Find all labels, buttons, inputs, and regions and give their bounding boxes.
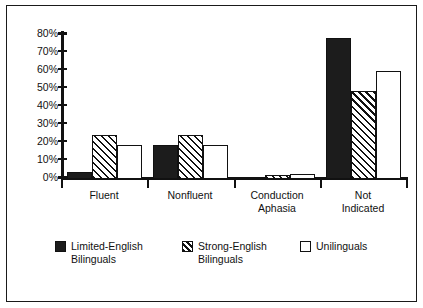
x-category-label: Nonfluent: [150, 189, 230, 202]
legend-swatch-diagonal-hatch-icon: [182, 241, 193, 252]
legend-swatch-open-white-icon: [300, 241, 311, 252]
legend-label: Unilinguals: [316, 240, 367, 253]
legend-label: Strong-English Bilinguals: [198, 240, 267, 266]
bar-strong-english-bilinguals: [178, 135, 203, 179]
legend-item-strong-english-bilinguals: Strong-English Bilinguals: [182, 240, 300, 266]
legend-item-limited-english-bilinguals: Limited-English Bilinguals: [55, 240, 182, 266]
bar-unilinguals: [290, 174, 315, 179]
bar-limited-english-bilinguals: [326, 38, 351, 179]
bar-limited-english-bilinguals: [153, 145, 178, 179]
chart-legend: Limited-English Bilinguals Strong-Englis…: [55, 240, 390, 266]
legend-label: Limited-English Bilinguals: [71, 240, 143, 266]
x-category-label: Fluent: [64, 189, 144, 202]
bar-strong-english-bilinguals: [92, 135, 117, 179]
bar-unilinguals: [203, 145, 228, 179]
bar-unilinguals: [376, 71, 401, 179]
bar-limited-english-bilinguals: [67, 172, 92, 179]
chart-figure: 80% 70% 60% 50% 40% 30% 20% 10% 0% Fluen…: [0, 0, 423, 308]
legend-item-unilinguals: Unilinguals: [300, 240, 390, 253]
bar-unilinguals: [117, 145, 142, 179]
x-category-label: Not Indicated: [323, 189, 403, 215]
x-category-label: Conduction Aphasia: [237, 189, 317, 215]
legend-swatch-solid-dark-icon: [55, 241, 66, 252]
bar-strong-english-bilinguals: [265, 175, 290, 179]
bar-strong-english-bilinguals: [351, 91, 376, 179]
